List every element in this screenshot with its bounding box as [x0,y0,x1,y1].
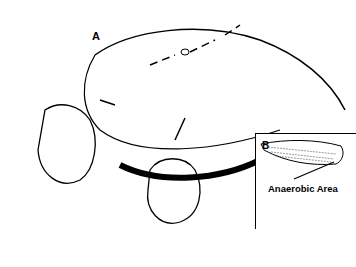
wound-tract-diagram [256,134,356,229]
inset-panel-b [255,133,356,229]
panel-a-label: A [92,30,100,42]
panel-b-label: B [262,140,269,151]
anaerobic-area-label: Anaerobic Area [268,183,338,194]
